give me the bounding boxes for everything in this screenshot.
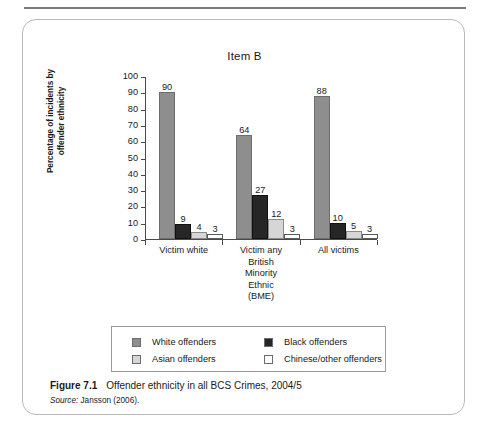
- caption-figure-number: Figure 7.1: [50, 380, 97, 391]
- y-axis-tick-label: 90: [128, 87, 138, 97]
- bar-value-label: 3: [367, 224, 372, 234]
- bar-value-label: 88: [317, 86, 327, 96]
- bar-value-label: 12: [271, 209, 281, 219]
- category-label-line: Victim any: [222, 245, 299, 257]
- figure-panel: Item B Percentage of incidents by offend…: [22, 19, 465, 415]
- bar-group: 6427123: [222, 77, 299, 239]
- category-label-line: Ethnic: [222, 280, 299, 292]
- y-axis-tick-label: 40: [128, 169, 138, 179]
- bar-group: 881053: [300, 77, 377, 239]
- y-axis-tick-label: 60: [128, 136, 138, 146]
- bar: 5: [346, 231, 362, 239]
- bar: 3: [284, 234, 300, 239]
- bar: 12: [268, 219, 284, 239]
- bar: 4: [191, 232, 207, 239]
- caption-source-line: Source: Jansson (2006).: [50, 395, 460, 406]
- y-axis-tick-label: 80: [128, 104, 138, 114]
- bar-value-label: 10: [333, 213, 343, 223]
- y-axis-tick-label: 50: [128, 153, 138, 163]
- bar-group: 90943: [145, 77, 222, 239]
- y-axis-tick-label: 30: [128, 185, 138, 195]
- legend-label: White offenders: [152, 337, 216, 347]
- legend-swatch-icon: [264, 355, 273, 364]
- bar-value-label: 4: [196, 222, 201, 232]
- y-axis-tick-label: 0: [133, 234, 138, 244]
- bar: 3: [207, 234, 223, 239]
- plot-area: 1009080706050403020100 90943642712388105…: [145, 77, 377, 240]
- bar: 90: [159, 92, 175, 239]
- page-top-rule: [24, 7, 466, 9]
- legend-item[interactable]: White offenders: [132, 337, 216, 347]
- bar-value-label: 3: [290, 224, 295, 234]
- y-axis-title: Percentage of incidents by offender ethn…: [46, 41, 72, 201]
- source-text: Jansson (2006).: [81, 396, 140, 405]
- bar-value-label: 90: [162, 82, 172, 92]
- y-axis-title-line-2: offender ethnicity: [57, 87, 66, 156]
- category-label-line: Victim white: [145, 245, 222, 257]
- category-label: All victims: [300, 245, 377, 257]
- caption-title-text: Offender ethnicity in all BCS Crimes, 20…: [106, 380, 301, 391]
- legend-label: Asian offenders: [152, 354, 216, 364]
- legend-item[interactable]: Chinese/other offenders: [264, 354, 382, 364]
- chart-legend: White offendersBlack offendersAsian offe…: [111, 326, 386, 372]
- x-axis-tick-mark: [377, 240, 378, 245]
- bar: 27: [252, 195, 268, 239]
- x-axis-line: [145, 239, 377, 240]
- legend-label: Black offenders: [284, 337, 347, 347]
- category-label-line: All victims: [300, 245, 377, 257]
- source-label: Source:: [50, 396, 78, 405]
- category-label: Victim anyBritishMinorityEthnic(BME): [222, 245, 299, 303]
- bar-value-label: 5: [351, 221, 356, 231]
- bar: 3: [362, 234, 378, 239]
- legend-swatch-icon: [264, 338, 273, 347]
- legend-swatch-icon: [132, 355, 141, 364]
- bar: 9: [175, 224, 191, 239]
- bar-value-label: 3: [212, 224, 217, 234]
- bar: 64: [236, 135, 252, 239]
- legend-item[interactable]: Black offenders: [264, 337, 347, 347]
- bar-value-label: 9: [180, 214, 185, 224]
- legend-label: Chinese/other offenders: [284, 354, 382, 364]
- bar-value-label: 64: [239, 125, 249, 135]
- caption-line: Figure 7.1Offender ethnicity in all BCS …: [50, 379, 460, 393]
- category-label-line: Minority: [222, 268, 299, 280]
- category-label: Victim white: [145, 245, 222, 257]
- bar-value-label: 27: [255, 185, 265, 195]
- category-label-line: (BME): [222, 291, 299, 303]
- figure-caption: Figure 7.1Offender ethnicity in all BCS …: [50, 379, 460, 406]
- y-axis-tick-label: 20: [128, 201, 138, 211]
- bar: 10: [330, 223, 346, 239]
- y-axis-title-line-1: Percentage of incidents by: [46, 69, 55, 173]
- legend-swatch-icon: [132, 338, 141, 347]
- y-axis-tick-label: 100: [123, 71, 138, 81]
- category-label-line: British: [222, 257, 299, 269]
- legend-item[interactable]: Asian offenders: [132, 354, 216, 364]
- y-axis-tick-label: 10: [128, 218, 138, 228]
- y-axis-tick-label: 70: [128, 120, 138, 130]
- bar: 88: [314, 96, 330, 239]
